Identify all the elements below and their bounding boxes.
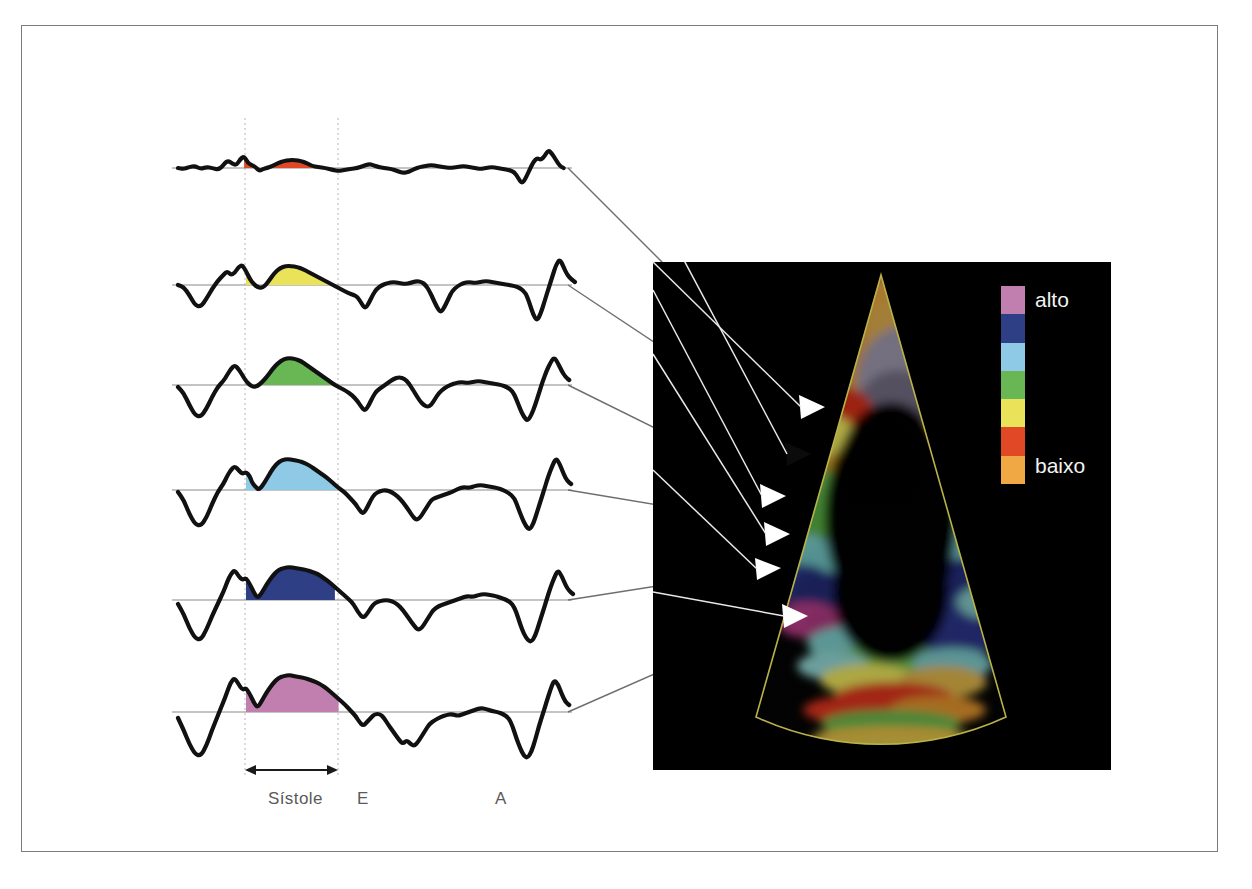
legend-swatch-2	[1001, 343, 1025, 371]
ultrasound-panel: alto baixo	[653, 262, 1111, 770]
legend-swatch-1	[1001, 314, 1025, 342]
legend-swatch-3	[1001, 371, 1025, 399]
legend-swatch-4	[1001, 399, 1025, 427]
legend-swatch-5	[1001, 427, 1025, 455]
legend-swatch-6	[1001, 456, 1025, 484]
legend-swatch-0	[1001, 286, 1025, 314]
legend-label-high: alto	[1035, 288, 1069, 312]
legend-color-bar	[1001, 286, 1025, 484]
figure-root: Sístole E A	[0, 0, 1252, 889]
velocity-color-legend: alto baixo	[1001, 286, 1105, 496]
axis-label-e: E	[357, 789, 369, 809]
axis-label-sistole: Sístole	[268, 789, 323, 809]
legend-label-low: baixo	[1035, 454, 1085, 478]
axis-label-a: A	[495, 789, 507, 809]
